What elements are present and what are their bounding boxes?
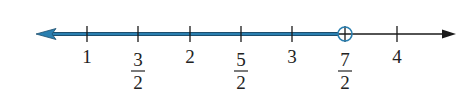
denominator: 2: [236, 72, 246, 93]
fraction-label: 32: [131, 49, 145, 93]
fraction-label: 52: [234, 49, 248, 93]
shaded-ray: [36, 29, 338, 40]
integer-label: 3: [287, 46, 297, 67]
right-arrow-icon: [442, 30, 456, 39]
denominator: 2: [133, 72, 143, 93]
denominator: 2: [340, 72, 350, 93]
tick-labels: 1322523724: [82, 46, 402, 93]
number-line: 1322523724: [0, 0, 474, 96]
numerator: 7: [340, 49, 350, 70]
integer-label: 1: [82, 46, 92, 67]
integer-label: 4: [392, 46, 402, 67]
integer-label: 2: [185, 46, 195, 67]
fraction-label: 72: [338, 49, 352, 93]
numerator: 5: [236, 49, 246, 70]
numerator: 3: [133, 49, 143, 70]
